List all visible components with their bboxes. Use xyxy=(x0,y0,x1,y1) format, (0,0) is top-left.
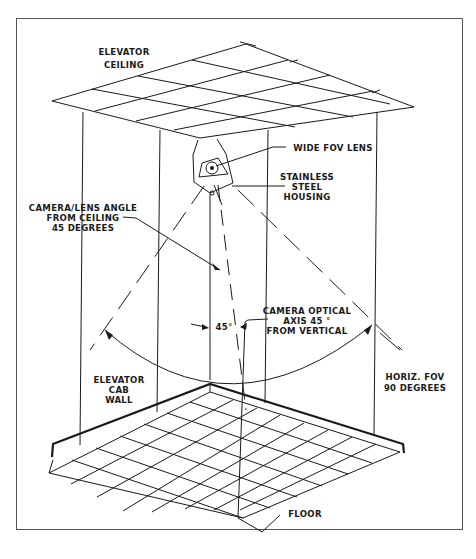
label-camera-angle-3: 45 DEGREES xyxy=(52,222,114,233)
label-cab-wall-3: WALL xyxy=(105,394,133,405)
label-horiz-fov: HORIZ. FOV xyxy=(385,371,444,382)
label-horiz-fov-2: 90 DEGREES xyxy=(384,382,446,393)
leader-lines xyxy=(123,147,286,532)
camera-housing xyxy=(193,139,233,195)
label-optical-axis-3: FROM VERTICAL xyxy=(266,325,347,336)
label-housing-3: HOUSING xyxy=(284,191,331,202)
label-elevator-ceiling: ELEVATOR xyxy=(98,46,149,57)
label-floor: FLOOR xyxy=(288,508,322,519)
label-45-degrees: 45° xyxy=(215,321,232,332)
label-wide-fov-lens: WIDE FOV LENS xyxy=(293,142,372,153)
label-elevator-ceiling-2: CEILING xyxy=(104,59,144,70)
elevator-camera-diagram: ELEVATOR CEILING WIDE FOV LENS STAINLESS… xyxy=(0,0,476,559)
floor-grid xyxy=(49,384,404,518)
